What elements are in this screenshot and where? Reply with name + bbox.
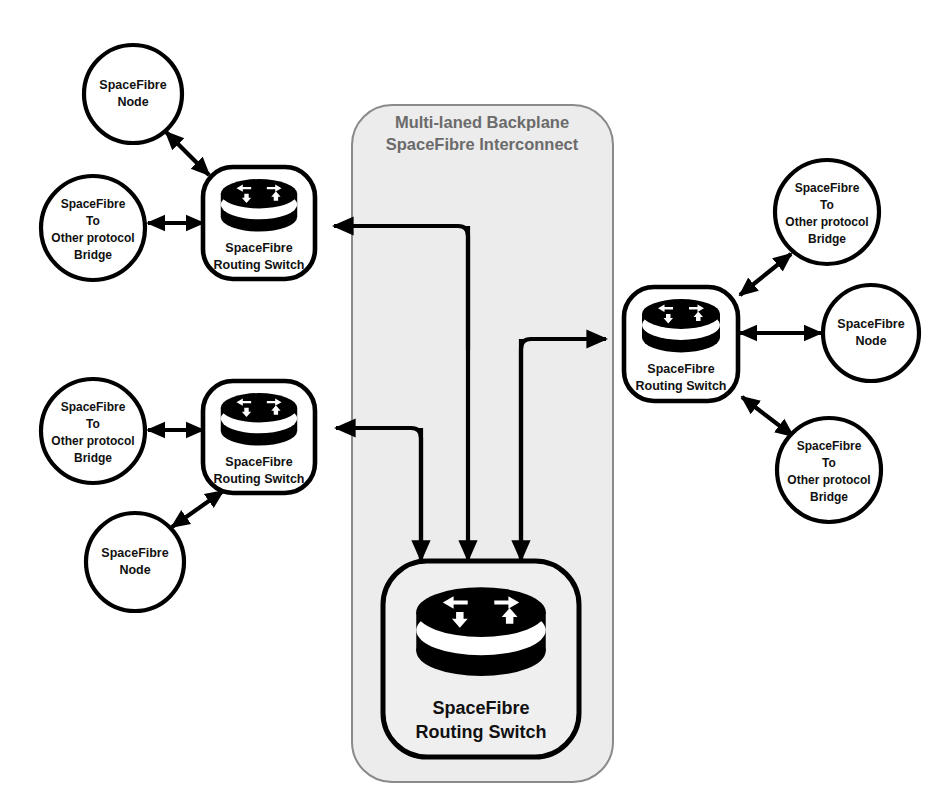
- switch-backplane[interactable]: SpaceFibre Routing Switch: [383, 561, 579, 757]
- bridge-label-line4: Bridge: [810, 490, 848, 504]
- switch-right[interactable]: SpaceFibre Routing Switch: [624, 287, 738, 401]
- node-circle: [823, 285, 919, 381]
- conn-bridge-rightbot-to-switch: [742, 397, 793, 436]
- bridge-right-top[interactable]: SpaceFibre To Other protocol Bridge: [775, 160, 879, 264]
- node-circle: [86, 513, 184, 611]
- bridge-label-line3: Other protocol: [51, 434, 134, 448]
- node-top-left[interactable]: SpaceFibre Node: [84, 45, 182, 143]
- backplane-title-line1: Multi-laned Backplane: [395, 113, 569, 131]
- conn-bridge-righttop-to-switch: [740, 254, 791, 295]
- bridge-label-line4: Bridge: [74, 451, 112, 465]
- router-icon: [416, 587, 545, 676]
- node-mid-left[interactable]: SpaceFibre Node: [86, 513, 184, 611]
- switch-label-line2: Routing Switch: [214, 472, 305, 486]
- bridge-top-left[interactable]: SpaceFibre To Other protocol Bridge: [41, 176, 145, 280]
- bridge-label-line3: Other protocol: [787, 473, 870, 487]
- bridge-circle: [777, 418, 881, 522]
- switch-label-line1: SpaceFibre: [225, 455, 292, 469]
- router-icon: [642, 299, 720, 353]
- switch-label-line1: SpaceFibre: [647, 362, 714, 376]
- bridge-label-line2: To: [822, 456, 836, 470]
- node-label-line1: SpaceFibre: [99, 78, 166, 92]
- switch-label-line2: Routing Switch: [416, 722, 547, 742]
- bridge-circle: [41, 379, 145, 483]
- node-circle: [84, 45, 182, 143]
- bridge-label-line2: To: [820, 198, 834, 212]
- bridge-label-line3: Other protocol: [785, 215, 868, 229]
- switch-label-line1: SpaceFibre: [225, 241, 292, 255]
- bridge-label-line1: SpaceFibre: [795, 181, 860, 195]
- node-right[interactable]: SpaceFibre Node: [823, 285, 919, 381]
- bridge-circle: [775, 160, 879, 264]
- node-label-line2: Node: [119, 563, 150, 577]
- switch-top-left[interactable]: SpaceFibre Routing Switch: [203, 167, 315, 279]
- node-label-line1: SpaceFibre: [837, 317, 904, 331]
- bridge-label-line4: Bridge: [74, 248, 112, 262]
- bridge-circle: [41, 176, 145, 280]
- node-label-line2: Node: [117, 95, 148, 109]
- conn-node-midleft-to-switch: [172, 491, 223, 527]
- switch-label-line2: Routing Switch: [636, 379, 727, 393]
- bridge-label-line1: SpaceFibre: [61, 197, 126, 211]
- router-icon: [221, 393, 297, 445]
- node-label-line1: SpaceFibre: [101, 546, 168, 560]
- bridge-label-line3: Other protocol: [51, 231, 134, 245]
- bridge-right-bottom[interactable]: SpaceFibre To Other protocol Bridge: [777, 418, 881, 522]
- bridge-label-line1: SpaceFibre: [797, 439, 862, 453]
- diagram-canvas: Multi-laned Backplane SpaceFibre Interco…: [0, 0, 938, 811]
- bridge-label-line2: To: [86, 417, 100, 431]
- spacefibre-network-diagram: Multi-laned Backplane SpaceFibre Interco…: [0, 0, 938, 811]
- switch-label-line2: Routing Switch: [214, 258, 305, 272]
- node-label-line2: Node: [855, 334, 886, 348]
- backplane-title-line2: SpaceFibre Interconnect: [386, 135, 579, 153]
- switch-mid-left[interactable]: SpaceFibre Routing Switch: [203, 381, 315, 493]
- bridge-label-line1: SpaceFibre: [61, 400, 126, 414]
- bridge-mid-left[interactable]: SpaceFibre To Other protocol Bridge: [41, 379, 145, 483]
- switch-label-line1: SpaceFibre: [432, 698, 529, 718]
- bridge-label-line2: To: [86, 214, 100, 228]
- bridge-label-line4: Bridge: [808, 232, 846, 246]
- router-icon: [221, 179, 297, 231]
- conn-node-topleft-to-switch: [166, 132, 209, 175]
